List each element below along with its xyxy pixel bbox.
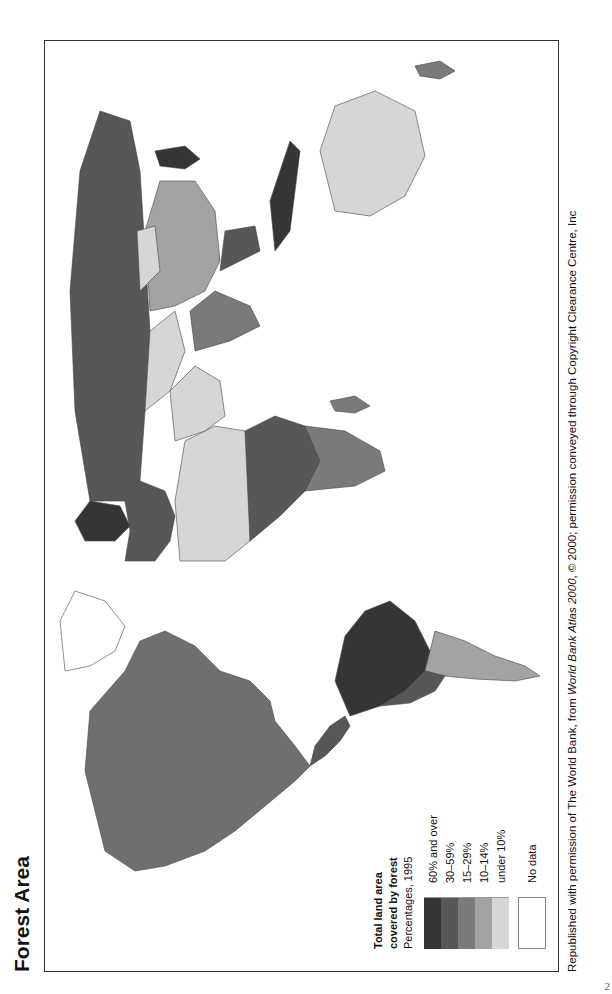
legend-heading-2: covered by forest: [386, 769, 401, 949]
legend-label: 60% and over: [427, 815, 439, 883]
legend-classes: 60% and over 30–59% 15–29% 10–14% under …: [424, 769, 509, 949]
attribution-caption: Republished with permission of The World…: [566, 211, 578, 972]
legend-swatch-10-14: [475, 897, 492, 949]
legend-item: under 10%: [492, 769, 509, 949]
region-japan: [155, 146, 200, 169]
legend-item: 10–14%: [475, 769, 492, 949]
region-north-africa: [175, 426, 255, 561]
region-india: [190, 291, 260, 351]
map-legend: Total land area covered by forest Percen…: [371, 769, 546, 949]
region-se-asia: [220, 226, 260, 271]
legend-swatch-under-10: [492, 897, 509, 949]
caption-prefix: Republished with permission of The World…: [566, 695, 578, 972]
legend-label: No data: [526, 844, 538, 883]
region-scandinavia: [75, 501, 130, 541]
legend-swatch-30-59: [441, 897, 458, 949]
legend-swatch-60-plus: [424, 897, 441, 949]
legend-item: 15–29%: [458, 769, 475, 949]
caption-source-title: World Bank Atlas 2000: [566, 578, 578, 695]
legend-label: under 10%: [495, 830, 507, 883]
legend-item-no-data: No data: [518, 769, 546, 949]
region-greenland: [60, 591, 125, 671]
region-central-america: [310, 716, 350, 766]
legend-swatch-15-29: [458, 897, 475, 949]
region-madagascar: [330, 396, 370, 413]
region-europe: [125, 481, 175, 561]
legend-label: 10–14%: [478, 843, 490, 883]
region-new-zealand: [415, 61, 455, 79]
legend-subheading: Percentages, 1995: [401, 769, 416, 949]
legend-item: 30–59%: [441, 769, 458, 949]
legend-swatch-no-data: [518, 897, 546, 949]
page-number: 2: [605, 980, 611, 992]
region-australia: [320, 91, 425, 216]
region-russia: [70, 111, 150, 501]
map-page: Forest Area: [0, 0, 612, 994]
map-frame: Total land area covered by forest Percen…: [44, 40, 559, 972]
region-indonesia: [270, 141, 300, 251]
legend-label: 15–29%: [461, 843, 473, 883]
page-title: Forest Area: [10, 856, 34, 972]
legend-label: 30–59%: [444, 843, 456, 883]
legend-heading-1: Total land area: [371, 769, 386, 949]
region-north-america: [85, 631, 310, 871]
caption-suffix: , © 2000; permission conveyed through Co…: [566, 211, 578, 579]
legend-item: 60% and over: [424, 769, 441, 949]
region-south-america-south: [425, 631, 540, 681]
